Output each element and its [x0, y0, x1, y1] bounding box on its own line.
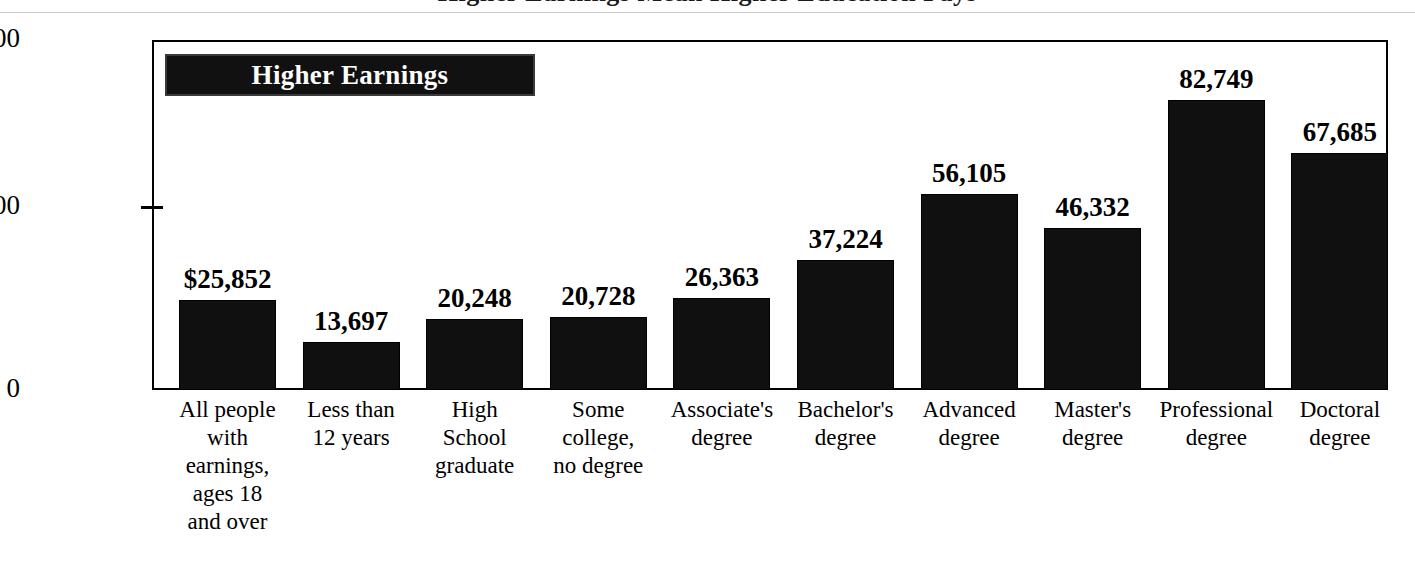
bar	[179, 300, 276, 390]
x-axis-category-label: Somecollege,no degree	[533, 396, 664, 480]
bar	[673, 298, 770, 390]
category-label-line: degree	[1274, 424, 1405, 452]
category-label-line: college,	[533, 424, 664, 452]
category-label-line: Professional	[1151, 396, 1282, 424]
x-axis-category-label: Master'sdegree	[1027, 396, 1158, 452]
category-label-line: and over	[162, 508, 293, 536]
x-axis-category-label: Advanceddegree	[904, 396, 1035, 452]
category-label-line: ages 18	[162, 480, 293, 508]
y-axis-tick-label-50000: 50,000	[0, 192, 20, 219]
bar	[550, 317, 647, 390]
x-axis-category-label: Professionaldegree	[1151, 396, 1282, 452]
top-divider-rule	[0, 12, 1415, 13]
category-label-line: School	[409, 424, 540, 452]
bar-value-label: $25,852	[155, 266, 300, 293]
bar-value-label: 26,363	[649, 264, 794, 291]
bar-value-label: 67,685	[1267, 119, 1412, 146]
category-label-line: degree	[656, 424, 787, 452]
bar	[797, 260, 894, 390]
y-axis-tick-label-0: 0	[7, 375, 21, 402]
bar-value-label: 46,332	[1020, 194, 1165, 221]
bar	[426, 319, 523, 390]
category-label-line: Less than	[286, 396, 417, 424]
bar	[303, 342, 400, 390]
bar	[1168, 100, 1265, 390]
category-label-line: degree	[904, 424, 1035, 452]
bar-chart-figure: Higher Earnings Mean Higher Education Pa…	[0, 0, 1415, 567]
legend-banner: Higher Earnings	[165, 54, 535, 96]
cropped-page-title: Higher Earnings Mean Higher Education Pa…	[0, 0, 1415, 8]
category-label-line: degree	[1151, 424, 1282, 452]
category-label-line: earnings,	[162, 452, 293, 480]
bar	[1291, 153, 1388, 390]
category-label-line: Bachelor's	[780, 396, 911, 424]
x-axis-category-label: Bachelor'sdegree	[780, 396, 911, 452]
x-axis-category-label: Associate'sdegree	[656, 396, 787, 452]
x-axis-category-label: All peoplewithearnings,ages 18and over	[162, 396, 293, 536]
category-label-line: Master's	[1027, 396, 1158, 424]
category-label-line: degree	[1027, 424, 1158, 452]
category-label-line: Associate's	[656, 396, 787, 424]
category-label-line: graduate	[409, 452, 540, 480]
category-label-line: degree	[780, 424, 911, 452]
category-label-line: All people	[162, 396, 293, 424]
category-label-line: no degree	[533, 452, 664, 480]
category-label-line: Advanced	[904, 396, 1035, 424]
category-label-line: High	[409, 396, 540, 424]
bar	[921, 194, 1018, 390]
category-label-line: Some	[533, 396, 664, 424]
bar-value-label: 82,749	[1144, 66, 1289, 93]
category-label-line: Doctoral	[1274, 396, 1405, 424]
legend-label: Higher Earnings	[252, 60, 449, 91]
category-label-line: 12 years	[286, 424, 417, 452]
category-label-line: with	[162, 424, 293, 452]
x-axis-category-label: Doctoraldegree	[1274, 396, 1405, 452]
y-axis-tick-label-100000: $100,000	[0, 25, 20, 52]
y-axis-tick-mark-50000	[141, 206, 163, 209]
bar-value-label: 37,224	[773, 226, 918, 253]
x-axis-category-label: Less than12 years	[286, 396, 417, 452]
x-axis-category-label: HighSchoolgraduate	[409, 396, 540, 480]
bar	[1044, 228, 1141, 390]
bar-value-label: 56,105	[897, 160, 1042, 187]
